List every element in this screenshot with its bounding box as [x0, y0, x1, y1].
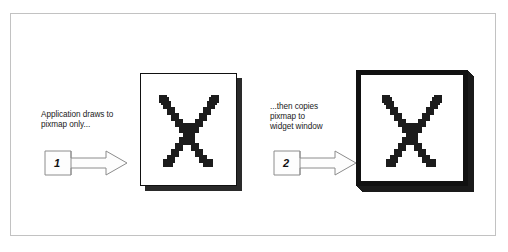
step-arrow-2: 2: [273, 148, 357, 178]
pixmap-box: [140, 73, 237, 186]
pixmap-box-face: [140, 73, 237, 186]
step-arrow-1: 1: [44, 148, 128, 178]
widget-window-x-glyph: [375, 89, 449, 171]
pixmap-x-glyph: [157, 89, 221, 171]
caption-step-1: Application draws to pixmap only...: [41, 110, 137, 130]
widget-window-face: [356, 70, 468, 186]
figure-frame: Application draws to pixmap only... 1: [10, 13, 496, 236]
caption-step-2: ...then copies pixmap to widget window: [270, 102, 354, 131]
widget-window: [356, 70, 474, 192]
figure-root: Application draws to pixmap only... 1: [0, 0, 508, 252]
step-number-1: 1: [54, 157, 60, 169]
step-number-2: 2: [282, 157, 289, 169]
